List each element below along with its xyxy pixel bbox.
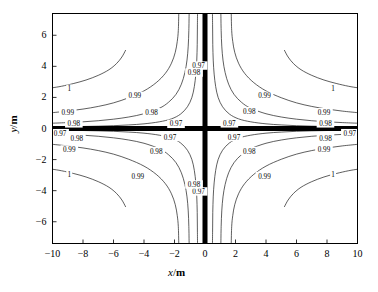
contour-line-level-1 — [53, 169, 126, 207]
contour-label: 0.97 — [223, 120, 236, 128]
contour-label: 0.99 — [61, 109, 74, 117]
y-axis-label-variable: y — [7, 128, 19, 133]
contour-line-level-1 — [53, 50, 126, 88]
y-tick-label: 4 — [19, 60, 47, 71]
contour-label: 0.99 — [258, 92, 271, 100]
contour-label: 0.98 — [150, 148, 163, 156]
contour-label: 0.98 — [319, 135, 332, 143]
contour-label: 0.97 — [170, 120, 183, 128]
y-tick-label: −2 — [19, 154, 47, 165]
contour-line-level-0p99 — [53, 14, 179, 113]
contour-label: 0.97 — [192, 188, 205, 196]
contour-label: 0.98 — [68, 120, 81, 128]
contour-label: 1 — [331, 171, 335, 179]
contour-line-level-0p99 — [231, 14, 357, 113]
contour-line-level-0p99 — [231, 144, 357, 243]
contour-label: 0.98 — [188, 181, 201, 189]
contour-line-level-0p97 — [212, 130, 357, 243]
contour-plot-figure: 10.990.980.970.980.9910.990.980.970.970.… — [0, 0, 378, 292]
y-tick-label: −4 — [19, 185, 47, 196]
contour-label: 0.97 — [164, 134, 177, 142]
contour-label: 0.99 — [318, 109, 331, 117]
contour-label: 0.99 — [63, 146, 76, 154]
y-tick-label: 6 — [19, 29, 47, 40]
contour-line-level-1 — [284, 50, 357, 88]
contour-line-level-1 — [284, 169, 357, 207]
contour-label: 0.97 — [228, 134, 241, 142]
contour-label: 0.99 — [258, 173, 271, 181]
contour-label: 0.99 — [132, 173, 145, 181]
contour-label: 0.98 — [71, 135, 84, 143]
y-tick-label: −6 — [19, 216, 47, 227]
contour-line-level-0p99 — [53, 144, 179, 243]
contour-label: 1 — [67, 171, 71, 179]
contour-label: 0.97 — [344, 130, 357, 138]
contour-label: 0.99 — [318, 146, 331, 154]
y-axis-label: y/m — [7, 115, 19, 132]
contour-label: 0.99 — [129, 92, 142, 100]
contour-label: 1 — [331, 85, 335, 93]
contour-label: 0.97 — [54, 130, 67, 138]
contour-label: 0.98 — [243, 108, 256, 116]
contour-line-level-0p97 — [212, 14, 357, 127]
y-axis-label-unit: m — [7, 115, 19, 124]
x-axis-label: x/m — [168, 266, 185, 278]
y-tick-label: 2 — [19, 91, 47, 102]
contour-label: 1 — [67, 85, 71, 93]
y-axis-label-separator: / — [7, 125, 19, 128]
contour-label: 0.98 — [243, 148, 256, 156]
heavy-coordinate-axes — [53, 14, 358, 244]
contour-label: 0.98 — [319, 120, 332, 128]
contour-label: 0.98 — [145, 109, 158, 117]
x-tick-label: 10 — [338, 248, 378, 259]
contour-label: 0.98 — [188, 69, 201, 77]
x-axis-label-unit: m — [176, 266, 185, 278]
y-tick-label: 0 — [19, 123, 47, 134]
